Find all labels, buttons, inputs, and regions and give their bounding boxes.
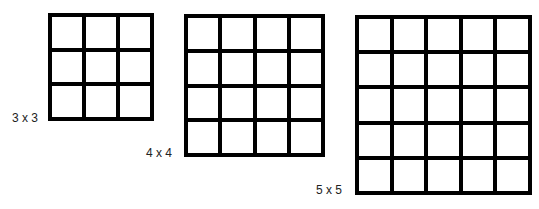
grid-cell [428,160,459,191]
grid-label-4x4: 4 x 4 [146,147,172,159]
grid-cell [428,89,459,120]
grid-cell [291,122,321,153]
grid-cell [463,160,494,191]
grid-cell [359,54,390,85]
grid-cell [188,53,218,84]
grid-cell [394,54,425,85]
grid-cell [359,89,390,120]
grid-label-5x5: 5 x 5 [316,184,342,196]
grid-cell [222,53,252,84]
grid-cell [359,19,390,50]
grid-cell [394,125,425,156]
grid-cell [497,89,528,120]
grid-cell [394,89,425,120]
grid-cell [86,52,116,83]
grid-5x5 [355,15,532,195]
grid-cell [291,18,321,49]
grid-cell [359,125,390,156]
grid-cell [86,86,116,117]
grid-cell [291,53,321,84]
grid-3x3 [48,13,154,121]
grid-cell [257,18,287,49]
grid-cell [52,86,82,117]
grid-cell [257,88,287,119]
grid-cell [222,122,252,153]
grid-cell [428,54,459,85]
grid-cell [222,88,252,119]
grid-cell [497,160,528,191]
grid-cell [463,89,494,120]
grid-cell [188,122,218,153]
grid-cell [86,17,116,48]
grid-cell [120,17,150,48]
grid-cell [497,19,528,50]
grid-cell [497,125,528,156]
grid-cell [188,88,218,119]
grid-cell [120,52,150,83]
grid-cell [52,17,82,48]
grid-cell [463,125,494,156]
grid-cell [120,86,150,117]
grid-label-3x3: 3 x 3 [12,112,38,124]
grid-cell [291,88,321,119]
grid-cell [463,54,494,85]
grid-cell [428,125,459,156]
grid-cell [359,160,390,191]
grid-4x4 [184,14,325,157]
grid-cell [428,19,459,50]
grid-cell [257,53,287,84]
grid-cell [52,52,82,83]
grid-cell [257,122,287,153]
grid-cell [188,18,218,49]
grid-cell [394,19,425,50]
grid-cell [463,19,494,50]
grid-cell [222,18,252,49]
grid-cell [394,160,425,191]
grid-cell [497,54,528,85]
